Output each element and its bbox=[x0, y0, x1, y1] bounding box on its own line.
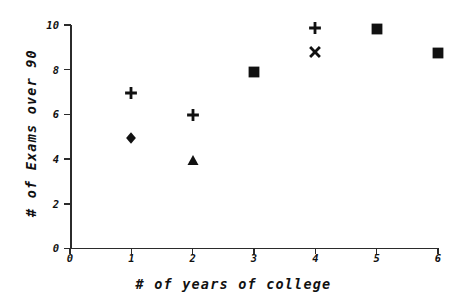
y-tick-mark bbox=[64, 69, 71, 71]
data-point-square-icon bbox=[248, 65, 261, 78]
data-point-plus-icon bbox=[186, 109, 199, 122]
data-point-diamond-icon bbox=[125, 131, 138, 144]
data-point-triangle-icon bbox=[186, 154, 199, 167]
data-point-plus-icon bbox=[309, 22, 322, 35]
y-tick-mark bbox=[64, 114, 71, 116]
data-point-plus-icon bbox=[125, 87, 138, 100]
x-tick-label: 1 bbox=[118, 252, 144, 264]
x-tick-label: 3 bbox=[241, 252, 267, 264]
y-tick-mark bbox=[64, 24, 71, 26]
data-point-square-icon bbox=[432, 46, 445, 59]
x-tick-label: 2 bbox=[180, 252, 206, 264]
scatter-plot: 0246810 0123456 # of years of college # … bbox=[0, 0, 467, 302]
y-tick-mark bbox=[64, 203, 71, 205]
x-tick-label: 4 bbox=[302, 252, 328, 264]
x-axis-title: # of years of college bbox=[0, 276, 467, 292]
x-tick-label: 5 bbox=[364, 252, 390, 264]
y-axis-title: # of Exams over 90 bbox=[23, 18, 39, 248]
data-point-square-icon bbox=[370, 23, 383, 36]
y-tick-mark bbox=[64, 158, 71, 160]
data-point-cross-icon bbox=[309, 45, 322, 58]
y-axis-line bbox=[70, 25, 72, 249]
x-tick-label: 6 bbox=[425, 252, 451, 264]
x-tick-label: 0 bbox=[57, 252, 83, 264]
